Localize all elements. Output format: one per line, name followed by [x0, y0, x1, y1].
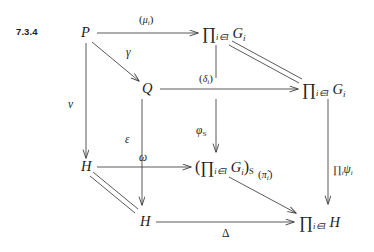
node-h-bottom: H	[140, 214, 150, 229]
equality-prodg-top-to-right-a	[229, 45, 299, 83]
localization-subscript: S	[249, 166, 254, 176]
figure-container: 7.3.4 P Q H H ∏i∈I Gi ∏i∈I Gi (∏i∈I Gi)S…	[0, 0, 374, 252]
product-object-subscript: i	[243, 33, 246, 43]
arrow-label-mu: (μi)	[139, 14, 153, 27]
section-number: 7.3.4	[16, 27, 38, 37]
arrow-label-delta-i: (δi)	[199, 73, 213, 86]
product-object: H	[329, 214, 339, 230]
equality-h-left-to-h-bottom-b	[93, 172, 138, 209]
product-index: i∈I	[214, 166, 227, 176]
arrow-label-delta-diagonal: Δ	[222, 228, 229, 240]
arrow-label-gamma: γ	[126, 47, 131, 59]
product-symbol: ∏	[302, 80, 316, 99]
node-prod-h: ∏i∈I H	[299, 213, 340, 231]
node-prod-g-right: ∏i∈I Gi	[302, 80, 345, 99]
product-symbol: ∏	[299, 213, 313, 232]
product-symbol: ∏	[200, 158, 214, 177]
arrow-p-to-q-gamma	[92, 42, 139, 81]
product-object: G	[332, 81, 342, 97]
product-index: i∈I	[216, 32, 229, 42]
equality-prodg-top-to-right-b	[232, 41, 302, 79]
arrow-label-phi-s: φS	[196, 125, 206, 138]
node-prod-g-top: ∏i∈I Gi	[202, 24, 245, 43]
arrow-label-omega: ω	[139, 152, 147, 164]
product-symbol: ∏	[202, 24, 216, 43]
node-p: P	[81, 25, 90, 40]
equality-h-left-to-h-bottom-a	[90, 176, 135, 213]
node-q: Q	[142, 81, 152, 96]
node-h-left: H	[81, 159, 91, 174]
arrow-label-epsilon: ε	[125, 134, 130, 146]
node-prod-g-s: (∏i∈I Gi)S	[195, 158, 254, 177]
arrow-label-pi-tilde: (π̃i)	[258, 169, 272, 182]
product-object: G	[231, 159, 241, 175]
product-index: i∈I	[313, 221, 326, 231]
arrow-prodgs-to-prodh-pitilde	[229, 177, 296, 213]
product-object: G	[232, 25, 242, 41]
arrow-label-prod-psi: ∏iψi	[333, 164, 353, 177]
product-object-subscript: i	[343, 89, 346, 99]
arrow-label-nu: ν	[68, 99, 73, 111]
product-index: i∈I	[316, 88, 329, 98]
